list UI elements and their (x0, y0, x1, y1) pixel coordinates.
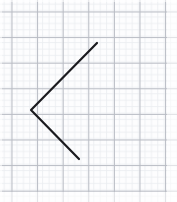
angle-drawing-layer (0, 0, 177, 202)
angle-polyline (31, 43, 97, 159)
figure-root: A single V-shaped (less-than sign) angle… (0, 0, 177, 202)
